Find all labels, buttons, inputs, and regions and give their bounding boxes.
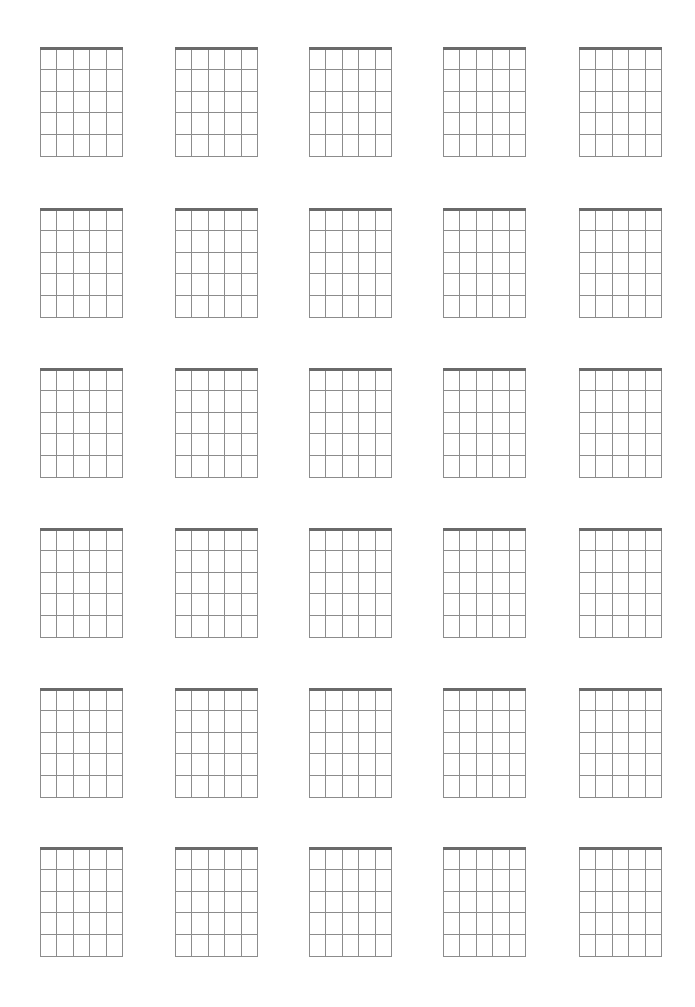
fret-line — [579, 869, 662, 870]
string-line — [476, 368, 477, 478]
chord-diagram — [443, 47, 526, 157]
string-line — [241, 208, 242, 318]
string-line — [73, 528, 74, 638]
string-line — [175, 368, 176, 478]
chord-diagram — [443, 368, 526, 478]
fret-line — [175, 732, 258, 733]
string-line — [476, 847, 477, 957]
fret-line — [309, 775, 392, 776]
fret-line — [309, 230, 392, 231]
string-line — [122, 688, 123, 798]
fret-line — [309, 252, 392, 253]
string-line — [106, 688, 107, 798]
fret-line — [309, 91, 392, 92]
fret-line — [579, 550, 662, 551]
fret-line — [40, 775, 123, 776]
fret-line — [579, 891, 662, 892]
fret-line — [579, 593, 662, 594]
string-line — [492, 688, 493, 798]
string-line — [358, 47, 359, 157]
string-line — [476, 47, 477, 157]
string-line — [224, 847, 225, 957]
chord-diagram — [579, 528, 662, 638]
fret-line — [579, 273, 662, 274]
nut-bar — [579, 368, 662, 371]
chord-diagram — [309, 528, 392, 638]
string-line — [645, 528, 646, 638]
string-line — [73, 47, 74, 157]
nut-bar — [443, 208, 526, 211]
string-line — [358, 847, 359, 957]
fret-line — [309, 69, 392, 70]
fret-line — [175, 637, 258, 638]
fret-line — [175, 273, 258, 274]
string-line — [492, 847, 493, 957]
chord-diagram — [309, 368, 392, 478]
string-line — [628, 208, 629, 318]
string-line — [459, 47, 460, 157]
fret-line — [443, 252, 526, 253]
fret-line — [175, 455, 258, 456]
string-line — [492, 47, 493, 157]
nut-bar — [309, 528, 392, 531]
string-line — [191, 368, 192, 478]
nut-bar — [443, 47, 526, 50]
fret-line — [175, 156, 258, 157]
fret-line — [175, 934, 258, 935]
string-line — [375, 688, 376, 798]
string-line — [325, 688, 326, 798]
fret-line — [309, 934, 392, 935]
chord-diagram — [175, 368, 258, 478]
string-line — [509, 208, 510, 318]
nut-bar — [579, 47, 662, 50]
chord-diagram — [443, 847, 526, 957]
fret-line — [443, 69, 526, 70]
fret-line — [443, 572, 526, 573]
string-line — [459, 208, 460, 318]
string-line — [241, 688, 242, 798]
string-line — [89, 847, 90, 957]
string-line — [443, 688, 444, 798]
string-line — [325, 47, 326, 157]
string-line — [612, 528, 613, 638]
string-line — [191, 688, 192, 798]
fret-line — [40, 433, 123, 434]
string-line — [208, 528, 209, 638]
string-line — [459, 528, 460, 638]
string-line — [509, 528, 510, 638]
chord-diagram — [579, 847, 662, 957]
fret-line — [175, 134, 258, 135]
nut-bar — [443, 368, 526, 371]
nut-bar — [309, 688, 392, 691]
string-line — [612, 47, 613, 157]
string-line — [612, 847, 613, 957]
fret-line — [309, 637, 392, 638]
fret-line — [443, 230, 526, 231]
string-line — [509, 688, 510, 798]
fret-line — [309, 156, 392, 157]
string-line — [525, 528, 526, 638]
string-line — [40, 47, 41, 157]
string-line — [40, 528, 41, 638]
fret-line — [309, 912, 392, 913]
string-line — [122, 847, 123, 957]
string-line — [391, 368, 392, 478]
string-line — [443, 208, 444, 318]
string-line — [443, 368, 444, 478]
string-line — [375, 847, 376, 957]
string-line — [509, 368, 510, 478]
nut-bar — [40, 688, 123, 691]
string-line — [309, 847, 310, 957]
string-line — [509, 47, 510, 157]
string-line — [509, 847, 510, 957]
string-line — [525, 47, 526, 157]
fret-line — [40, 593, 123, 594]
fret-line — [443, 710, 526, 711]
fret-line — [579, 797, 662, 798]
fret-line — [175, 412, 258, 413]
chord-diagram — [175, 47, 258, 157]
string-line — [89, 47, 90, 157]
fret-line — [309, 412, 392, 413]
string-line — [325, 368, 326, 478]
fret-line — [443, 732, 526, 733]
